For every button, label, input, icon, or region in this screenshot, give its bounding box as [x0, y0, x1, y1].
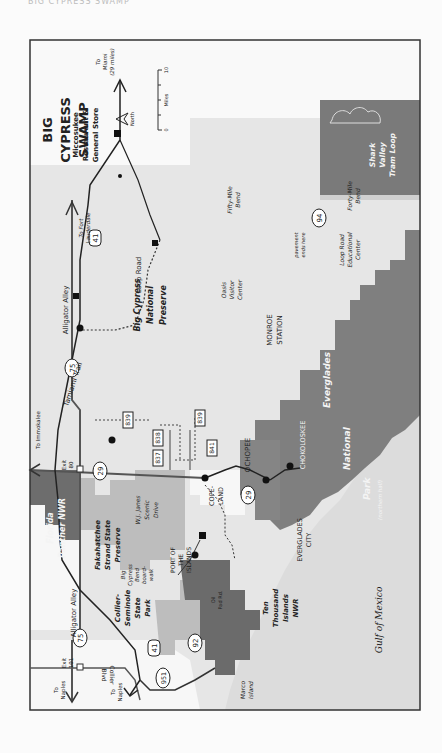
svg-text:To: To: [53, 686, 59, 693]
svg-text:838: 838: [154, 432, 161, 444]
svg-text:839: 839: [196, 412, 203, 424]
svg-text:29: 29: [97, 467, 105, 476]
svg-text:Big: Big: [120, 570, 127, 579]
svg-text:Cypress: Cypress: [127, 564, 134, 586]
svg-text:walk: walk: [148, 568, 154, 581]
loop-center-marker[interactable]: [152, 240, 158, 246]
svg-text:Oil: Oil: [210, 597, 216, 604]
shield-cr841: 841: [207, 440, 217, 456]
svg-text:board-: board-: [141, 566, 147, 584]
svg-text:ends here: ends here: [300, 233, 306, 258]
svg-text:Miccosukee: Miccosukee: [72, 112, 80, 158]
oasis-marker[interactable]: [73, 293, 79, 299]
svg-text:STATION: STATION: [276, 315, 284, 345]
svg-text:Seminole: Seminole: [124, 590, 132, 627]
svg-text:EVERGLADES: EVERGLADES: [296, 518, 304, 562]
svg-text:Island: Island: [247, 681, 254, 699]
svg-text:Strand State: Strand State: [104, 520, 112, 570]
svg-text:Tram Loop: Tram Loop: [388, 132, 397, 177]
boardwalk-marker[interactable]: [199, 532, 206, 539]
svg-text:29: 29: [245, 491, 253, 500]
svg-text:Exit: Exit: [61, 459, 67, 470]
label-marco-island: Marco Island: [239, 681, 254, 700]
label-loop-road: Loop Road: [135, 257, 143, 294]
label-alligator-alley-1: Alligator Alley: [62, 286, 70, 335]
svg-text:Ten: Ten: [262, 601, 270, 615]
svg-text:Fakahatchee: Fakahatchee: [94, 520, 102, 570]
svg-text:Naples: Naples: [117, 682, 124, 701]
svg-text:BIG: BIG: [40, 117, 55, 142]
shield-sr92: 92: [188, 634, 202, 652]
svg-text:National: National: [342, 426, 352, 470]
miccosukee-marker[interactable]: [114, 130, 121, 137]
svg-text:Miles: Miles: [163, 93, 169, 106]
label-ochopee: OCHOPEE: [244, 438, 252, 472]
exit-80-marker[interactable]: [77, 466, 83, 472]
shield-cr837: 837: [153, 450, 163, 466]
svg-text:Center: Center: [354, 239, 361, 260]
shield-sr29-a: 29: [93, 462, 107, 480]
svg-text:Collier: Collier: [109, 665, 116, 685]
label-copeland: COPE- LAND: [208, 485, 225, 506]
ochopee-marker[interactable]: [109, 437, 116, 444]
svg-text:National: National: [146, 286, 155, 324]
copeland-marker[interactable]: [202, 475, 209, 482]
svg-text:Lauderdale: Lauderdale: [85, 212, 91, 243]
svg-text:Forty-Mile: Forty-Mile: [346, 181, 354, 211]
svg-text:Everglades: Everglades: [322, 351, 332, 408]
svg-text:10: 10: [163, 67, 169, 73]
svg-text:Marco: Marco: [239, 681, 246, 700]
svg-text:Drive: Drive: [152, 502, 159, 518]
label-pavement: pavement ends here: [293, 231, 306, 258]
forty-mile-marker[interactable]: [118, 174, 122, 178]
svg-text:Miami: Miami: [102, 53, 108, 70]
chokoloskee-marker[interactable]: [287, 463, 294, 470]
everglades-city-marker[interactable]: [263, 477, 270, 484]
label-exit-101: Exit 101: [61, 657, 74, 668]
svg-text:PORT OF: PORT OF: [169, 547, 176, 573]
label-immokalee: To Immokalee: [35, 410, 41, 450]
svg-text:Florida: Florida: [46, 512, 55, 544]
shield-cr838: 838: [153, 430, 163, 446]
label-chokoloskee: CHOKOLOSKEE: [299, 421, 307, 470]
monroe-station-marker[interactable]: [77, 325, 84, 332]
svg-text:Park: Park: [144, 598, 152, 617]
svg-text:Scenic: Scenic: [143, 500, 150, 520]
svg-text:841: 841: [208, 442, 215, 454]
svg-text:Educational: Educational: [346, 232, 353, 268]
svg-text:Panther NWR: Panther NWR: [58, 498, 67, 558]
shield-us41-b: 41: [148, 640, 160, 656]
svg-text:Exit: Exit: [61, 657, 67, 668]
svg-text:North: North: [129, 112, 135, 126]
big-cypress-map: 75 75 41 41 29 29 92 951 94 839 839 838 …: [0, 0, 442, 753]
svg-text:94: 94: [316, 213, 324, 222]
svg-text:CYPRESS: CYPRESS: [58, 97, 73, 163]
svg-text:Preserve: Preserve: [159, 285, 168, 325]
svg-text:80: 80: [68, 461, 74, 468]
svg-text:Valley: Valley: [378, 141, 387, 168]
shield-sr29-b: 29: [241, 486, 255, 504]
svg-text:NWR: NWR: [292, 599, 300, 618]
svg-text:CITY: CITY: [305, 533, 313, 547]
shield-cr839-a: 839: [123, 412, 133, 428]
shield-cr839-b: 839: [195, 410, 205, 426]
svg-text:COPE-: COPE-: [208, 485, 216, 506]
svg-text:Loop Road: Loop Road: [338, 234, 346, 266]
svg-text:Gulf of Mexico: Gulf of Mexico: [374, 586, 384, 653]
svg-text:Visitor: Visitor: [228, 280, 235, 300]
svg-text:To: To: [95, 58, 101, 65]
exit-101-marker[interactable]: [77, 664, 83, 670]
label-alligator-alley-2: Alligator Alley: [70, 589, 78, 638]
svg-text:Fifty-Mile: Fifty-Mile: [226, 186, 234, 214]
shark-valley-inner: [320, 195, 420, 200]
svg-text:General Store: General Store: [92, 107, 100, 162]
svg-text:(northern half): (northern half): [377, 480, 383, 520]
svg-text:W.J. Janes: W.J. Janes: [134, 495, 142, 524]
svg-text:(29 miles): (29 miles): [109, 48, 115, 76]
port-islands-marker[interactable]: [192, 552, 199, 559]
svg-text:Blvd: Blvd: [101, 668, 108, 681]
svg-text:Shark: Shark: [368, 142, 377, 168]
svg-text:Oasis: Oasis: [220, 282, 227, 298]
svg-text:41: 41: [92, 234, 100, 243]
svg-text:Pad Rd.: Pad Rd.: [217, 590, 223, 609]
